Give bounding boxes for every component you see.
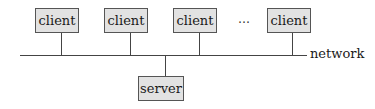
- client-node-4: client: [267, 8, 311, 33]
- client-1-connector: [61, 33, 62, 55]
- client-node-2: client: [104, 8, 148, 33]
- server-connector: [165, 55, 166, 76]
- client-3-connector: [199, 33, 200, 55]
- more-clients-ellipsis: …: [238, 12, 251, 26]
- network-label: network: [310, 47, 364, 60]
- client-2-connector: [130, 33, 131, 55]
- server-node: server: [138, 76, 184, 101]
- network-bus-line: [20, 55, 307, 56]
- client-node-3: client: [173, 8, 217, 33]
- client-4-connector: [292, 33, 293, 55]
- client-node-1: client: [35, 8, 79, 33]
